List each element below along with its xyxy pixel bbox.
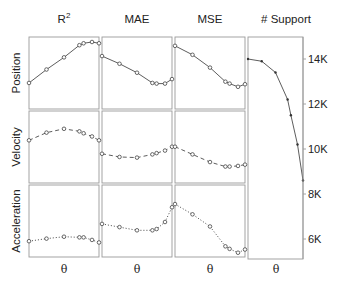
panel-velocity-mae [102,111,172,183]
data-point-marker [243,82,247,86]
data-point-marker [90,135,94,139]
panel-velocity-mse [175,111,245,183]
data-point-marker [286,98,288,100]
data-point-marker [78,236,82,240]
data-point-marker [191,53,195,57]
data-point-marker [27,139,31,143]
data-point-marker [173,44,177,48]
data-point-marker [236,251,240,255]
panel-acceleration-mse [175,185,245,257]
data-point-marker [82,236,86,240]
data-point-marker [224,245,228,249]
data-point-marker [90,40,94,44]
data-point-marker [100,54,104,58]
column-title-mae: MAE [125,13,150,25]
y-tick-label: 10K [308,143,328,155]
data-point-marker [236,85,240,89]
data-point-marker [97,41,101,45]
y-tick-label: 12K [308,98,328,110]
column-title-support: # Support [261,13,312,25]
data-point-marker [82,131,86,135]
row-title-velocity: Velocity [10,127,22,167]
data-point-marker [135,156,139,160]
column-title-mse: MSE [198,13,223,25]
data-point-marker [243,163,247,167]
data-point-marker [261,60,263,62]
data-point-marker [62,56,66,60]
support-y-axis: 14K12K10K8K6K [303,37,328,259]
data-point-marker [296,143,298,145]
data-point-marker [224,165,228,169]
data-point-marker [82,41,86,45]
data-point-marker [208,225,212,229]
data-point-marker [228,82,232,86]
data-point-marker [45,237,49,241]
data-point-marker [151,81,155,85]
data-point-marker [243,248,247,252]
data-point-marker [78,43,82,47]
row-title-acceleration: Acceleration [10,189,22,252]
data-point-marker [97,139,101,143]
data-point-marker [118,62,122,66]
data-point-marker [208,160,212,164]
panel-support [248,37,303,259]
data-point-marker [247,58,249,60]
data-point-marker [163,82,167,86]
panel-velocity-r [29,111,99,183]
data-point-marker [274,71,276,73]
data-point-marker [135,71,139,75]
data-point-marker [173,202,177,206]
data-point-marker [90,238,94,242]
data-point-marker [100,222,104,226]
data-point-marker [163,149,167,153]
data-point-marker [163,220,167,224]
data-point-marker [78,130,82,134]
data-point-marker [151,229,155,233]
row-title-position: Position [10,53,22,94]
data-point-marker [155,151,159,155]
x-axis-label-r2: θ [61,263,68,276]
data-point-marker [135,229,139,233]
figure: R2 MAE MSE # Support Position Velocity A… [0,0,339,286]
panel-position-r [29,37,99,109]
panel-frames [29,37,303,259]
x-axis-label-mae: θ [134,263,141,276]
data-point-marker [97,241,101,245]
panel-acceleration-r [29,185,99,257]
y-tick-label: 8K [308,188,322,200]
data-point-marker [228,247,232,251]
data-point-marker [155,227,159,231]
data-point-marker [45,131,49,135]
data-point-marker [224,80,228,84]
data-point-marker [170,205,174,209]
data-point-marker [208,66,212,70]
x-axis-label-support: θ [273,263,280,276]
data-point-marker [62,127,66,131]
data-point-marker [290,114,292,116]
data-point-marker [191,213,195,217]
data-point-marker [170,77,174,81]
x-axis-label-mse: θ [207,263,214,276]
data-point-marker [236,164,240,168]
data-point-marker [45,68,49,72]
panel-acceleration-mae [102,185,172,257]
data-point-marker [191,153,195,157]
y-tick-label: 14K [308,53,328,65]
panel-position-mse [175,37,245,109]
data-point-marker [118,155,122,159]
data-point-marker [173,145,177,149]
data-point-marker [155,82,159,86]
data-point-marker [27,81,31,85]
y-tick-label: 6K [308,233,322,245]
data-point-marker [151,153,155,157]
data-point-marker [27,239,31,243]
data-point-marker [100,152,104,156]
data-point-marker [62,235,66,239]
data-point-marker [228,165,232,169]
column-title-r2: R2 [58,11,71,25]
data-point-marker [118,225,122,229]
